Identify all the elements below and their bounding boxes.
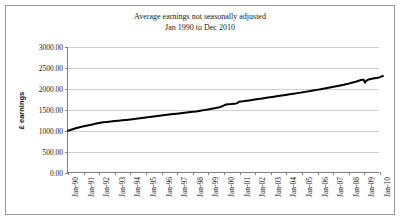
x-tick-label: Jan-00 bbox=[227, 177, 236, 197]
plot-area: 0.00500.001000.001500.002000.002500.0030… bbox=[67, 47, 379, 173]
x-tick-label: Jan-97 bbox=[180, 177, 189, 197]
y-tick-label: 500.00 bbox=[42, 148, 63, 157]
x-tick-label: Jan-93 bbox=[118, 177, 127, 197]
plot-wrapper: 0.00500.001000.001500.002000.002500.0030… bbox=[67, 47, 379, 173]
x-tick-label: Jan-07 bbox=[336, 177, 345, 197]
x-tick-label: Jan-98 bbox=[196, 177, 205, 197]
x-tick-label: Jan-96 bbox=[165, 177, 174, 197]
x-tick-label: Jan-99 bbox=[211, 177, 220, 197]
x-tick-label: Jan-90 bbox=[71, 177, 80, 197]
x-tick-label: Jan-10 bbox=[383, 177, 392, 197]
y-axis-title: £ earnings bbox=[15, 52, 29, 168]
x-tick-label: Jan-08 bbox=[352, 177, 361, 197]
chart-title-block: Average earnings not seasonally adjusted… bbox=[6, 12, 394, 33]
y-tick-label: 3000.00 bbox=[39, 43, 63, 52]
y-tick-label: 1500.00 bbox=[39, 106, 63, 115]
x-tick-label: Jan-02 bbox=[258, 177, 267, 197]
y-axis-title-text: £ earnings bbox=[18, 91, 27, 129]
y-tick-label: 0.00 bbox=[50, 169, 63, 178]
x-tick-label: Jan-92 bbox=[102, 177, 111, 197]
chart-figure: Average earnings not seasonally adjusted… bbox=[5, 5, 395, 215]
x-tick-label: Jan-01 bbox=[243, 177, 252, 197]
y-tick-label: 1000.00 bbox=[39, 127, 63, 136]
x-tick-label: Jan-94 bbox=[133, 177, 142, 197]
line-series-average-earnings bbox=[68, 76, 383, 131]
x-tick-label: Jan-95 bbox=[149, 177, 158, 197]
x-tick-label: Jan-03 bbox=[274, 177, 283, 197]
x-tick-label: Jan-91 bbox=[87, 177, 96, 197]
chart-title: Average earnings not seasonally adjusted bbox=[6, 12, 394, 23]
y-tick-label: 2500.00 bbox=[39, 64, 63, 73]
chart-subtitle: Jan 1990 to Dec 2010 bbox=[6, 23, 394, 34]
x-tick-label: Jan-09 bbox=[367, 177, 376, 197]
data-series-layer bbox=[68, 47, 379, 173]
x-tick-label: Jan-06 bbox=[321, 177, 330, 197]
x-tick-mark bbox=[380, 172, 381, 175]
x-tick-label: Jan-04 bbox=[289, 177, 298, 197]
y-tick-label: 2000.00 bbox=[39, 85, 63, 94]
x-tick-label: Jan-05 bbox=[305, 177, 314, 197]
